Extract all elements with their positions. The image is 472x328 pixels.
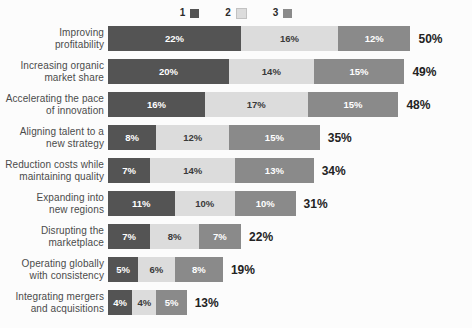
legend-item-2[interactable]: 2 (225, 8, 247, 19)
stacked-bar: 4%4%5% (108, 290, 187, 315)
chart-row: Disrupting themarketplace7%8%7%22% (0, 224, 472, 249)
row-label: Increasing organicmarket share (0, 60, 108, 83)
row-label: Aligning talent to anew strategy (0, 126, 108, 149)
row-total: 19% (231, 263, 255, 277)
bar-segment-2[interactable]: 14% (229, 59, 314, 84)
bar-segment-2[interactable]: 12% (156, 125, 229, 150)
chart-row: Expanding intonew regions11%10%10%31% (0, 191, 472, 216)
bar-segment-1[interactable]: 7% (108, 158, 150, 183)
row-total: 35% (328, 131, 352, 145)
row-total: 34% (322, 164, 346, 178)
bar-segment-2[interactable]: 14% (150, 158, 235, 183)
legend-item-3[interactable]: 3 (273, 8, 293, 18)
bar-segment-2[interactable]: 8% (150, 224, 198, 249)
legend-item-label: 2 (225, 8, 231, 18)
chart-legend: 123 (0, 6, 472, 20)
row-total: 22% (249, 230, 273, 244)
chart-row: Operating globallywith consistency5%6%8%… (0, 257, 472, 282)
row-label: Reduction costs whilemaintaining quality (0, 159, 108, 182)
stacked-bar: 20%14%15% (108, 59, 404, 84)
bar-segment-1[interactable]: 20% (108, 59, 229, 84)
row-label: Disrupting themarketplace (0, 225, 108, 248)
chart-row: Accelerating the paceof innovation16%17%… (0, 92, 472, 117)
bar-segment-3[interactable]: 5% (156, 290, 186, 315)
row-total: 31% (304, 197, 328, 211)
bar-segment-1[interactable]: 4% (108, 290, 132, 315)
bar-segment-3[interactable]: 13% (235, 158, 314, 183)
bar-segment-1[interactable]: 22% (108, 26, 241, 51)
bar-segment-3[interactable]: 10% (235, 191, 296, 216)
chart-row: Improvingprofitability22%16%12%50% (0, 26, 472, 51)
bar-segment-2[interactable]: 10% (175, 191, 236, 216)
legend-swatch-icon (190, 9, 199, 18)
row-total: 48% (406, 98, 430, 112)
stacked-bar-chart: 123 Improvingprofitability22%16%12%50%In… (0, 0, 472, 328)
chart-row: Aligning talent to anew strategy8%12%15%… (0, 125, 472, 150)
bar-segment-1[interactable]: 16% (108, 92, 205, 117)
chart-row: Integrating mergersand acquisitions4%4%5… (0, 290, 472, 315)
stacked-bar: 7%8%7% (108, 224, 241, 249)
bar-segment-3[interactable]: 15% (308, 92, 399, 117)
chart-row: Reduction costs whilemaintaining quality… (0, 158, 472, 183)
stacked-bar: 22%16%12% (108, 26, 410, 51)
bar-segment-3[interactable]: 15% (229, 125, 320, 150)
bar-segment-1[interactable]: 11% (108, 191, 175, 216)
row-label: Improvingprofitability (0, 27, 108, 50)
bar-segment-2[interactable]: 17% (205, 92, 308, 117)
legend-swatch-icon (283, 9, 292, 18)
bar-segment-1[interactable]: 5% (108, 257, 138, 282)
bar-segment-2[interactable]: 6% (138, 257, 174, 282)
chart-rows: Improvingprofitability22%16%12%50%Increa… (0, 26, 472, 323)
row-label: Accelerating the paceof innovation (0, 93, 108, 116)
legend-item-label: 1 (180, 8, 186, 18)
row-total: 49% (412, 65, 436, 79)
row-label: Operating globallywith consistency (0, 258, 108, 281)
bar-segment-2[interactable]: 4% (132, 290, 156, 315)
bar-segment-3[interactable]: 8% (175, 257, 223, 282)
stacked-bar: 11%10%10% (108, 191, 296, 216)
legend-item-label: 3 (273, 8, 279, 18)
row-total: 50% (418, 32, 442, 46)
bar-segment-1[interactable]: 7% (108, 224, 150, 249)
bar-segment-2[interactable]: 16% (241, 26, 338, 51)
stacked-bar: 5%6%8% (108, 257, 223, 282)
legend-item-1[interactable]: 1 (180, 8, 200, 18)
legend-swatch-icon (236, 8, 247, 19)
row-label: Integrating mergersand acquisitions (0, 291, 108, 314)
bar-segment-3[interactable]: 7% (199, 224, 241, 249)
chart-row: Increasing organicmarket share20%14%15%4… (0, 59, 472, 84)
bar-segment-3[interactable]: 12% (338, 26, 411, 51)
row-label: Expanding intonew regions (0, 192, 108, 215)
stacked-bar: 8%12%15% (108, 125, 320, 150)
bar-segment-1[interactable]: 8% (108, 125, 156, 150)
row-total: 13% (195, 296, 219, 310)
stacked-bar: 16%17%15% (108, 92, 398, 117)
bar-segment-3[interactable]: 15% (314, 59, 405, 84)
stacked-bar: 7%14%13% (108, 158, 314, 183)
